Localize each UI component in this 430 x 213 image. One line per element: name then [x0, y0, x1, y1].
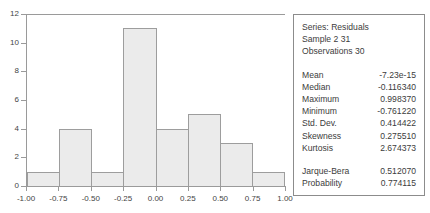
x-axis-tick [188, 186, 189, 191]
histogram-bar [188, 114, 221, 186]
statistic-value: -0.761220 [377, 105, 416, 117]
statistic-value: 0.414422 [380, 117, 416, 129]
statistics-panel: Series: ResidualsSample 2 31Observations… [293, 14, 425, 196]
statistic-value: 0.512070 [380, 165, 416, 177]
histogram-panel: 024681012 -1.00-0.75-0.50-0.250.000.250.… [0, 0, 290, 213]
histogram-bar [59, 129, 92, 186]
histogram-bar [123, 28, 156, 186]
normality-test-row: Probability0.774115 [302, 177, 416, 189]
y-axis-tick-label: 10 [0, 39, 19, 47]
statistic-row: Maximum0.998370 [302, 93, 416, 105]
y-axis-tick-label: 6 [0, 96, 19, 104]
statistics-header-line: Series: Residuals [302, 21, 416, 33]
statistic-row: Std. Dev.0.414422 [302, 117, 416, 129]
statistic-label: Median [302, 81, 330, 93]
statistic-label: Std. Dev. [302, 117, 337, 129]
plot-frame [26, 14, 285, 186]
plot-area [27, 15, 285, 186]
y-axis-tick [21, 43, 26, 44]
statistic-label: Mean [302, 69, 324, 81]
statistic-value: -7.23e-15 [379, 69, 416, 81]
histogram-bar [156, 129, 189, 186]
histogram-bar [91, 172, 124, 186]
statistic-value: 2.674373 [380, 142, 416, 154]
y-axis-tick-label: 8 [0, 67, 19, 75]
statistic-label: Skewness [302, 130, 341, 142]
statistic-value: -0.116340 [378, 81, 416, 93]
y-axis-tick [21, 14, 26, 15]
histogram-stats-figure: 024681012 -1.00-0.75-0.50-0.250.000.250.… [0, 0, 430, 213]
statistics-header-line: Sample 2 31 [302, 33, 416, 45]
spacer [302, 58, 416, 69]
statistic-row: Skewness0.275510 [302, 130, 416, 142]
statistics-header-line: Observations 30 [302, 45, 416, 57]
statistic-value: 0.774115 [381, 177, 416, 189]
x-axis-tick [220, 186, 221, 191]
y-axis-tick-label: 12 [0, 10, 19, 18]
histogram-bar [27, 172, 60, 186]
statistic-row: Mean-7.23e-15 [302, 69, 416, 81]
normality-test-row: Jarque-Bera0.512070 [302, 165, 416, 177]
y-axis-tick [21, 157, 26, 158]
statistic-value: 0.998370 [380, 93, 416, 105]
y-axis-tick-label: 2 [0, 153, 19, 161]
x-axis-tick [285, 186, 286, 191]
y-axis-tick [21, 129, 26, 130]
statistic-label: Minimum [302, 105, 337, 117]
statistic-value: 0.275510 [380, 130, 416, 142]
statistics-rows: Mean-7.23e-15Median-0.116340Maximum0.998… [302, 69, 416, 154]
x-axis-tick [156, 186, 157, 191]
statistic-label: Probability [302, 177, 342, 189]
x-axis-tick [91, 186, 92, 191]
y-axis-tick-label: 0 [0, 182, 19, 190]
statistic-row: Median-0.116340 [302, 81, 416, 93]
x-axis-tick [253, 186, 254, 191]
statistic-label: Jarque-Bera [302, 165, 349, 177]
x-axis-tick [58, 186, 59, 191]
statistic-label: Kurtosis [302, 142, 333, 154]
y-axis-tick-label: 4 [0, 125, 19, 133]
y-axis-tick [21, 100, 26, 101]
histogram-bars [27, 15, 285, 186]
statistic-row: Minimum-0.761220 [302, 105, 416, 117]
y-axis-tick [21, 71, 26, 72]
spacer-2 [302, 154, 416, 165]
statistics-header: Series: ResidualsSample 2 31Observations… [302, 21, 416, 58]
histogram-bar [252, 172, 285, 186]
histogram-bar [220, 143, 253, 186]
statistic-row: Kurtosis2.674373 [302, 142, 416, 154]
statistic-label: Maximum [302, 93, 339, 105]
x-axis-tick [26, 186, 27, 191]
normality-test-rows: Jarque-Bera0.512070Probability0.774115 [302, 165, 416, 189]
x-axis-tick [123, 186, 124, 191]
